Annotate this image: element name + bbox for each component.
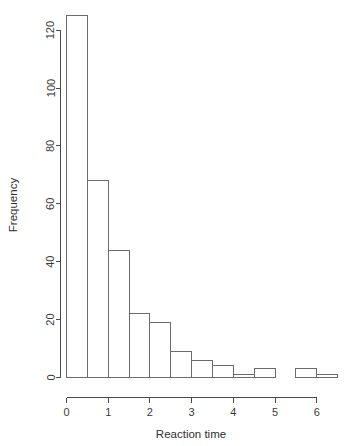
y-axis-tick-label: 80 — [45, 140, 57, 152]
y-axis-tick-label: 100 — [45, 79, 57, 97]
y-axis-tick-label: 40 — [45, 256, 57, 268]
histogram-bar — [150, 323, 171, 378]
histogram-figure: 0123456 020406080100120 Reaction time Fr… — [0, 0, 354, 446]
histogram-bar — [233, 375, 254, 378]
x-axis-tick-label: 0 — [63, 406, 69, 418]
histogram-bar — [192, 360, 213, 377]
y-axis-title: Frequency — [7, 178, 19, 233]
histogram-bar — [317, 375, 338, 378]
histogram-bar — [254, 369, 275, 378]
x-axis-tick-label: 1 — [105, 406, 111, 418]
histogram-bar — [296, 369, 317, 378]
histogram-bar — [129, 314, 150, 378]
y-axis-tick-label: 20 — [45, 313, 57, 325]
x-axis-tick-label: 2 — [147, 406, 153, 418]
histogram-plot: 0123456 020406080100120 Reaction time Fr… — [0, 0, 354, 446]
histogram-bar — [67, 16, 88, 378]
y-axis-tick-label: 60 — [45, 198, 57, 210]
histogram-bar — [171, 351, 192, 377]
histogram-bar — [212, 366, 233, 378]
y-axis-tick-label: 0 — [45, 374, 57, 380]
x-axis-title: Reaction time — [156, 428, 226, 440]
x-axis-tick-label: 6 — [314, 406, 320, 418]
x-axis-tick-label: 3 — [189, 406, 195, 418]
x-axis-tick-label: 5 — [272, 406, 278, 418]
histogram-bar — [108, 250, 129, 377]
histogram-bar — [87, 181, 108, 378]
bars-group — [67, 16, 338, 378]
x-axis: 0123456 — [63, 398, 319, 418]
y-axis-tick-label: 120 — [45, 21, 57, 39]
x-axis-tick-label: 4 — [230, 406, 236, 418]
y-axis: 020406080100120 — [45, 21, 61, 381]
